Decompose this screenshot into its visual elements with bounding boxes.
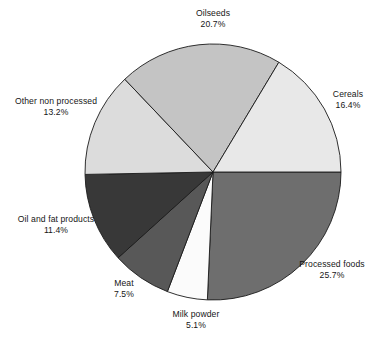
pie-label-processed-foods-name: Processed foods — [288, 259, 376, 270]
pie-label-other-non-processed: Other non processed 13.2% — [2, 96, 110, 118]
pie-label-processed-foods: Processed foods 25.7% — [288, 259, 376, 281]
pie-label-cereals: Cereals 16.4% — [320, 89, 376, 111]
pie-chart: Oilseeds 20.7% Cereals 16.4% Processed f… — [0, 0, 380, 338]
pie-label-other-non-processed-value: 13.2% — [2, 107, 110, 118]
pie-label-cereals-value: 16.4% — [320, 100, 376, 111]
pie-label-milk-powder-value: 5.1% — [158, 320, 234, 331]
pie-label-processed-foods-value: 25.7% — [288, 270, 376, 281]
pie-label-other-non-processed-name: Other non processed — [2, 96, 110, 107]
pie-label-meat-value: 7.5% — [101, 289, 147, 300]
pie-label-meat: Meat 7.5% — [101, 278, 147, 300]
pie-label-oilseeds-value: 20.7% — [178, 19, 248, 30]
pie-label-milk-powder: Milk powder 5.1% — [158, 309, 234, 331]
pie-label-meat-name: Meat — [101, 278, 147, 289]
pie-label-cereals-name: Cereals — [320, 89, 376, 100]
pie-label-oilseeds-name: Oilseeds — [178, 8, 248, 19]
pie-label-oil-and-fat-products-name: Oil and fat products — [4, 214, 108, 225]
pie-label-oilseeds: Oilseeds 20.7% — [178, 8, 248, 30]
pie-label-milk-powder-name: Milk powder — [158, 309, 234, 320]
pie-chart-canvas — [0, 0, 380, 338]
pie-label-oil-and-fat-products: Oil and fat products 11.4% — [4, 214, 108, 236]
pie-label-oil-and-fat-products-value: 11.4% — [4, 225, 108, 236]
